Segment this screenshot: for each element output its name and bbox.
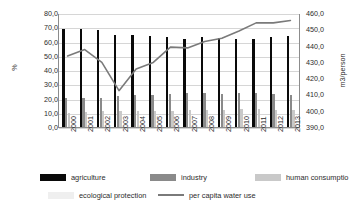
x-axis-tick-label: 2009 <box>225 116 233 132</box>
legend-swatch-agriculture <box>40 174 66 181</box>
left-axis-tick-label: 40,0 <box>18 67 58 75</box>
x-axis-tick-label: 2012 <box>277 116 285 132</box>
legend-swatch-ecological-protection <box>48 192 74 199</box>
left-axis-tick-label: 60,0 <box>18 39 58 47</box>
right-axis-tick-label: 390,0 <box>306 124 350 132</box>
legend-row-2: ecological protectionper capita water us… <box>0 188 364 202</box>
right-axis-tick-label: 400,0 <box>306 108 350 116</box>
x-axis-tick-label: 2000 <box>70 116 78 132</box>
legend-label: industry <box>181 173 207 182</box>
legend-label: human consumptio <box>286 173 348 182</box>
right-axis-title: m3/person <box>338 41 347 101</box>
legend-row-1: agricultureindustryhuman consumptio <box>0 170 364 184</box>
legend-item[interactable]: human consumptio <box>255 173 348 182</box>
legend-label: agriculture <box>71 173 106 182</box>
water-use-chart: 0,010,020,030,040,050,060,070,080,0 390,… <box>0 0 364 209</box>
chart-legend: agricultureindustryhuman consumptio ecol… <box>0 168 364 209</box>
left-axis-tick-label: 50,0 <box>18 53 58 61</box>
legend-label: ecological protection <box>79 191 146 200</box>
right-axis-tick-label: 460,0 <box>306 10 350 18</box>
left-axis-tick-label: 0,0 <box>18 124 58 132</box>
left-axis-tick-label: 20,0 <box>18 96 58 104</box>
x-axis-tick-label: 2010 <box>243 116 251 132</box>
x-axis-tick-label: 2006 <box>173 116 181 132</box>
x-axis-tick-label: 2008 <box>208 116 216 132</box>
left-axis-title: % <box>10 48 19 88</box>
x-axis-tick-label: 2005 <box>156 116 164 132</box>
x-axis-tick-label: 2013 <box>294 116 302 132</box>
legend-swatch-human-consumptio <box>255 174 281 181</box>
legend-item[interactable]: ecological protection <box>48 191 146 200</box>
legend-swatch-per-capita-water-use <box>158 194 184 196</box>
legend-label: per capita water use <box>189 191 256 200</box>
x-axis-tick-label: 2002 <box>104 116 112 132</box>
left-axis-tick-label: 80,0 <box>18 10 58 18</box>
right-axis-tick-label: 450,0 <box>306 26 350 34</box>
plot-area <box>58 14 300 128</box>
x-axis-tick-label: 2004 <box>139 116 147 132</box>
legend-item[interactable]: per capita water use <box>158 191 256 200</box>
left-axis-tick-label: 70,0 <box>18 24 58 32</box>
x-axis-tick-label: 2001 <box>87 116 95 132</box>
x-axis-tick-label: 2003 <box>122 116 130 132</box>
x-axis-ticks: 2000200120022003200420052006200720082009… <box>58 130 300 166</box>
legend-swatch-industry <box>150 174 176 181</box>
legend-item[interactable]: agriculture <box>40 173 106 182</box>
legend-item[interactable]: industry <box>150 173 207 182</box>
x-axis-tick-label: 2007 <box>191 116 199 132</box>
left-axis-tick-label: 30,0 <box>18 81 58 89</box>
line-series <box>59 14 299 127</box>
x-axis-tick-label: 2011 <box>260 117 268 132</box>
left-axis-tick-label: 10,0 <box>18 110 58 118</box>
